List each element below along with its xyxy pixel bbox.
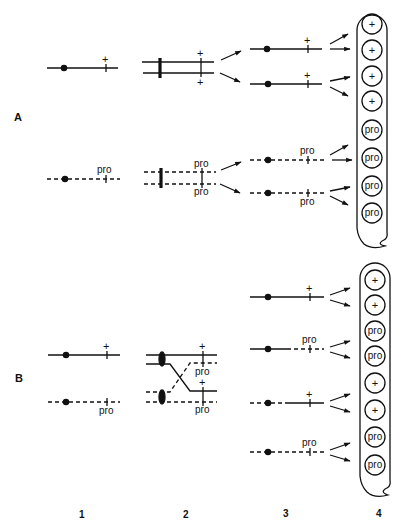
spore-label: + xyxy=(372,404,378,416)
arrow-icon xyxy=(330,87,348,96)
meiosis-ascus-diagram: + pro + + pro pro + + pro pro + + + + pr… xyxy=(0,0,403,527)
spore-label: pro xyxy=(365,152,380,163)
spore-label: + xyxy=(372,299,378,311)
arrow-icon xyxy=(220,73,240,82)
arrow-icon xyxy=(221,162,241,170)
allele-label: + xyxy=(102,53,108,65)
b-stage3-chromosome xyxy=(250,448,324,456)
spore-label: pro xyxy=(368,459,383,470)
a-stage2-dashed-pair xyxy=(144,168,216,188)
arrow-icon xyxy=(330,196,348,205)
arrow-icon xyxy=(330,288,350,295)
arrow-icon xyxy=(330,341,350,347)
allele-label: + xyxy=(197,76,203,88)
allele-label: pro xyxy=(97,164,112,175)
arrow-icon xyxy=(330,455,350,461)
arrow-icon xyxy=(330,187,350,191)
spore-label: pro xyxy=(365,207,380,218)
b-stage3-chromosome xyxy=(250,345,324,353)
allele-label: + xyxy=(304,69,310,81)
column-label-1: 1 xyxy=(79,509,85,520)
spore-label: pro xyxy=(368,431,383,442)
allele-label: pro xyxy=(195,404,210,415)
allele-label: + xyxy=(306,282,312,294)
column-label-4: 4 xyxy=(376,508,382,519)
a-stage2-solid-pair xyxy=(142,58,214,78)
arrow-icon xyxy=(330,300,350,306)
arrow-icon xyxy=(330,34,348,44)
spore-label: + xyxy=(372,274,378,286)
spore-label: pro xyxy=(365,124,380,135)
allele-label: pro xyxy=(194,158,209,169)
a-stage1-solid-chromosome xyxy=(47,64,118,72)
arrow-icon xyxy=(330,145,348,155)
arrow-icon xyxy=(330,394,350,401)
arrow-icon xyxy=(330,406,350,412)
arrow-icon xyxy=(221,51,241,60)
allele-label: pro xyxy=(302,437,317,448)
spore-label: pro xyxy=(365,180,380,191)
spore-label: pro xyxy=(368,350,383,361)
spore-label: pro xyxy=(368,325,383,336)
arrow-icon xyxy=(330,352,350,358)
arrow-icon xyxy=(330,443,350,450)
allele-label: pro xyxy=(99,405,114,416)
allele-label: pro xyxy=(302,334,317,345)
arrow-icon xyxy=(220,184,240,193)
b-stage3-chromosome xyxy=(250,293,324,301)
b-stage3-chromosome xyxy=(250,399,324,407)
spore-label: + xyxy=(369,70,375,82)
a-stage3-chromosome xyxy=(250,156,326,164)
allele-label: + xyxy=(103,340,109,352)
b-stage2-crossover xyxy=(146,351,217,406)
allele-label: + xyxy=(199,340,205,352)
arrow-icon xyxy=(330,77,350,81)
a-stage3-chromosome xyxy=(250,45,322,53)
allele-label: pro xyxy=(300,145,315,156)
allele-label: + xyxy=(197,47,203,59)
spore-label: + xyxy=(372,377,378,389)
panel-label-b: B xyxy=(15,372,23,384)
a-stage1-dashed-chromosome xyxy=(47,175,120,183)
a-stage3-chromosome xyxy=(250,80,322,88)
spore-label: + xyxy=(369,44,375,56)
spore-label: + xyxy=(369,18,375,30)
column-label-2: 2 xyxy=(183,509,189,520)
allele-label: + xyxy=(306,388,312,400)
allele-label: + xyxy=(304,34,310,46)
allele-label: pro xyxy=(300,196,315,207)
panel-label-a: A xyxy=(14,111,22,123)
allele-label: + xyxy=(199,376,205,388)
allele-label: pro xyxy=(194,186,209,197)
spore-label: + xyxy=(369,95,375,107)
b-stage1-solid-chromosome xyxy=(48,351,120,359)
column-label-3: 3 xyxy=(283,508,289,519)
a-stage3-chromosome xyxy=(250,189,326,197)
